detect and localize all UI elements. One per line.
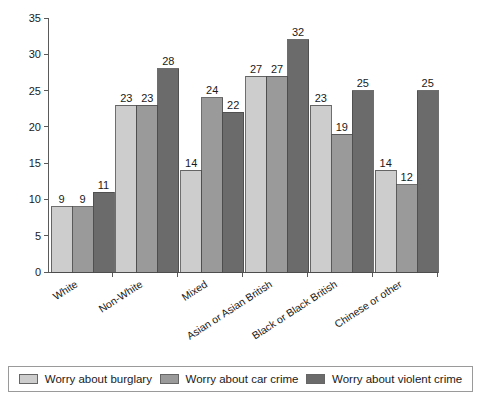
- bar: [51, 207, 72, 272]
- y-tick-label: 0: [35, 266, 41, 278]
- x-category-label: Non-White: [96, 278, 144, 315]
- bar-value-label: 27: [271, 63, 283, 75]
- y-tick-label: 30: [29, 48, 41, 60]
- chart-canvas: 051015202530359911White232328Non-White14…: [0, 0, 485, 360]
- y-tick-label: 35: [29, 12, 41, 24]
- y-tick-label: 10: [29, 193, 41, 205]
- bar: [158, 69, 179, 272]
- bar-value-label: 23: [141, 92, 153, 104]
- bar-value-label: 9: [58, 193, 64, 205]
- bar-value-label: 32: [292, 26, 304, 38]
- bar-value-label: 14: [380, 157, 392, 169]
- bar-value-label: 25: [422, 77, 434, 89]
- x-category-label: Mixed: [179, 278, 209, 303]
- x-category-label: White: [51, 278, 80, 303]
- legend-item-car-crime: Worry about car crime: [160, 373, 299, 385]
- bar: [181, 170, 202, 272]
- bar: [93, 192, 114, 272]
- legend-swatch-car-crime: [160, 374, 179, 384]
- y-tick-label: 25: [29, 85, 41, 97]
- bar-value-label: 14: [185, 157, 197, 169]
- bar: [137, 105, 158, 272]
- bar-value-label: 24: [206, 84, 218, 96]
- bar-value-label: 23: [120, 92, 132, 104]
- bar: [288, 40, 309, 272]
- y-tick-label: 20: [29, 121, 41, 133]
- y-tick-label: 5: [35, 230, 41, 242]
- bar: [331, 134, 352, 272]
- bar-value-label: 9: [79, 193, 85, 205]
- legend-swatch-burglary: [19, 374, 38, 384]
- bar: [310, 105, 331, 272]
- legend-label-burglary: Worry about burglary: [45, 373, 152, 385]
- legend-label-violent-crime: Worry about violent crime: [332, 373, 462, 385]
- legend-item-violent-crime: Worry about violent crime: [306, 373, 462, 385]
- bar-value-label: 23: [315, 92, 327, 104]
- legend-item-burglary: Worry about burglary: [19, 373, 152, 385]
- chart-legend: Worry about burglary Worry about car cri…: [8, 366, 473, 392]
- legend-swatch-violent-crime: [306, 374, 325, 384]
- bar-value-label: 25: [357, 77, 369, 89]
- bar: [267, 76, 288, 272]
- bar-value-label: 27: [250, 63, 262, 75]
- bar: [202, 98, 223, 272]
- bar-value-label: 12: [401, 171, 413, 183]
- bar-value-label: 22: [227, 99, 239, 111]
- bar: [417, 91, 438, 272]
- bar: [352, 91, 373, 272]
- bar: [246, 76, 267, 272]
- bar-value-label: 19: [336, 121, 348, 133]
- bar-chart: 051015202530359911White232328Non-White14…: [0, 0, 485, 403]
- bar: [396, 185, 417, 272]
- x-category-label: Chinese or other: [332, 277, 404, 330]
- bar: [375, 170, 396, 272]
- bar: [116, 105, 137, 272]
- plot-area: 051015202530359911White232328Non-White14…: [0, 0, 485, 360]
- bar: [223, 112, 244, 272]
- bar-value-label: 11: [98, 179, 109, 191]
- legend-label-car-crime: Worry about car crime: [186, 373, 299, 385]
- y-tick-label: 15: [29, 157, 41, 169]
- bar: [72, 207, 93, 272]
- bar-value-label: 28: [162, 55, 174, 67]
